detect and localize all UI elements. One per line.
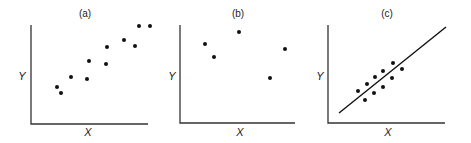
panel-c: (c) Y X (316, 8, 446, 138)
panel-a-axes (31, 25, 148, 124)
panel-a-y-label: Y (18, 70, 26, 82)
data-point (104, 62, 108, 66)
data-point (122, 38, 126, 42)
panel-b: (b) Y X (168, 8, 295, 138)
data-point (59, 91, 63, 95)
data-point (268, 76, 272, 80)
data-point (363, 98, 367, 102)
data-point (87, 59, 91, 63)
panel-a-title: (a) (79, 8, 91, 19)
panel-b-x-label: X (235, 126, 244, 138)
data-point (105, 45, 109, 49)
panel-a: (a) Y X (18, 8, 152, 138)
data-point (372, 91, 376, 95)
data-point (391, 61, 395, 65)
scatter-plots-figure: (a) Y X (b) Y X (c) Y X (0, 0, 471, 143)
panel-b-axes (180, 25, 295, 123)
data-point (148, 24, 152, 28)
regression-line (339, 27, 446, 113)
data-point (390, 76, 394, 80)
data-point (85, 77, 89, 81)
data-point (381, 69, 385, 73)
data-point (283, 47, 287, 51)
data-point (69, 75, 73, 79)
data-point (356, 89, 360, 93)
data-point (212, 55, 216, 59)
data-point (137, 24, 141, 28)
panel-c-x-label: X (383, 126, 392, 138)
panel-a-x-label: X (83, 126, 92, 138)
panel-c-y-label: Y (316, 70, 324, 82)
data-point (133, 44, 137, 48)
panel-c-title: (c) (381, 8, 393, 19)
data-point (237, 30, 241, 34)
data-point (373, 75, 377, 79)
panel-b-y-label: Y (168, 70, 176, 82)
panel-b-title: (b) (232, 8, 244, 19)
data-point (55, 85, 59, 89)
data-point (203, 42, 207, 46)
data-point (400, 67, 404, 71)
data-point (381, 85, 385, 89)
data-point (365, 82, 369, 86)
